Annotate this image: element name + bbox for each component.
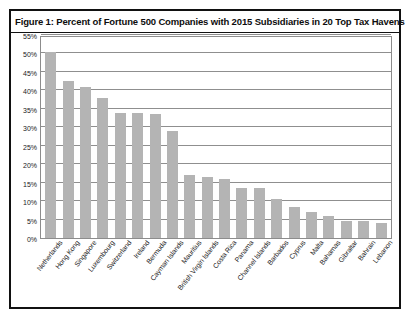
- chart-body: 0%5%10%15%20%25%30%35%40%45%50%55% Nethe…: [11, 33, 399, 307]
- bar-series: [41, 37, 391, 238]
- plot-area: [40, 36, 392, 239]
- bar: [45, 52, 56, 238]
- bar: [236, 188, 247, 238]
- y-axis: 0%5%10%15%20%25%30%35%40%45%50%55%: [11, 33, 39, 245]
- bar: [80, 87, 91, 238]
- bar: [376, 223, 387, 238]
- bar: [323, 216, 334, 238]
- bar: [219, 179, 230, 238]
- y-tick-label: 5%: [27, 217, 37, 224]
- x-tick-label: Cyprus: [288, 239, 307, 260]
- figure-title-bar: Figure 1: Percent of Fortune 500 Compani…: [11, 11, 399, 33]
- bar: [115, 113, 126, 238]
- y-tick-label: 10%: [23, 199, 37, 206]
- bar: [63, 81, 74, 238]
- y-tick-label: 50%: [23, 51, 37, 58]
- bar: [202, 177, 213, 238]
- gridline: [41, 34, 391, 35]
- bar: [271, 199, 282, 238]
- x-tick-label: Malta: [308, 239, 324, 256]
- bar: [184, 175, 195, 238]
- page-title: Figure 1: Percent of Fortune 500 Compani…: [15, 16, 405, 27]
- bar: [132, 113, 143, 238]
- y-tick-label: 30%: [23, 125, 37, 132]
- y-tick-label: 45%: [23, 69, 37, 76]
- bar: [358, 221, 369, 238]
- bar: [254, 188, 265, 238]
- bar: [289, 207, 300, 238]
- y-tick-label: 15%: [23, 180, 37, 187]
- x-axis: NetherlandsHong KongSingaporeLuxembourgS…: [40, 239, 392, 307]
- bar: [306, 212, 317, 238]
- bar: [341, 221, 352, 238]
- y-tick-label: 40%: [23, 88, 37, 95]
- y-tick-label: 0%: [27, 236, 37, 243]
- bar: [150, 114, 161, 238]
- y-tick-label: 20%: [23, 162, 37, 169]
- bar: [167, 131, 178, 238]
- y-tick-label: 25%: [23, 143, 37, 150]
- y-tick-label: 35%: [23, 106, 37, 113]
- y-tick-label: 55%: [23, 33, 37, 40]
- bar: [97, 98, 108, 238]
- figure-container: Figure 1: Percent of Fortune 500 Compani…: [9, 9, 401, 309]
